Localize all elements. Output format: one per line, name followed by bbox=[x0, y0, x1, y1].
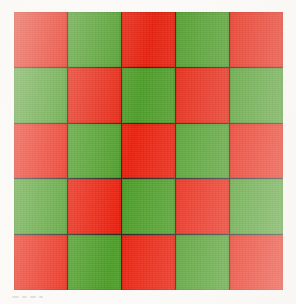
cell-r4-c2-red bbox=[68, 179, 121, 234]
bottom-left-scan-marks bbox=[12, 294, 56, 300]
cell-r1-c5-red bbox=[230, 12, 283, 67]
screenshot-canvas bbox=[0, 0, 296, 304]
cell-r3-c1-red bbox=[14, 124, 67, 179]
cell-r3-c2-green bbox=[68, 124, 121, 179]
checkerboard-grid bbox=[14, 12, 283, 290]
cell-r4-c3-green bbox=[122, 179, 175, 234]
cell-r2-c2-red bbox=[68, 68, 121, 123]
cell-r5-c5-red bbox=[230, 235, 283, 290]
cell-r5-c1-red bbox=[14, 235, 67, 290]
cell-r3-c3-red bbox=[122, 124, 175, 179]
cell-r3-c5-red bbox=[230, 124, 283, 179]
cell-r1-c3-red bbox=[122, 12, 175, 67]
scan-mark-4 bbox=[39, 296, 43, 298]
cell-r4-c4-red bbox=[176, 179, 229, 234]
cell-r5-c2-green bbox=[68, 235, 121, 290]
cell-r2-c4-red bbox=[176, 68, 229, 123]
cell-r1-c2-green bbox=[68, 12, 121, 67]
scan-mark-3 bbox=[30, 296, 36, 298]
cell-r3-c4-green bbox=[176, 124, 229, 179]
scan-mark-2 bbox=[22, 296, 27, 298]
cell-r2-c3-green bbox=[122, 68, 175, 123]
cell-r2-c5-green bbox=[230, 68, 283, 123]
cell-r1-c4-green bbox=[176, 12, 229, 67]
cell-r4-c1-green bbox=[14, 179, 67, 234]
cell-r5-c3-red bbox=[122, 235, 175, 290]
cell-r4-c5-green bbox=[230, 179, 283, 234]
cell-r5-c4-green bbox=[176, 235, 229, 290]
cell-r1-c1-red bbox=[14, 12, 67, 67]
cell-r2-c1-green bbox=[14, 68, 67, 123]
scan-mark-1 bbox=[12, 296, 19, 298]
